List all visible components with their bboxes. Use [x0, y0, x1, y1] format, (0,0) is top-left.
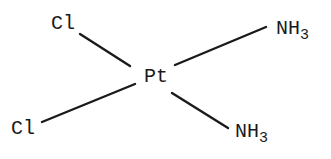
atom-label: NH [276, 17, 300, 40]
bond-pt-nh3-bottom-right [172, 93, 228, 128]
bond-pt-nh3-top-right [175, 27, 266, 65]
atom-label: Pt [144, 65, 168, 88]
atom-label: Cl [51, 12, 75, 35]
atom-subscript: 3 [259, 130, 268, 147]
molecule-diagram: Cl Cl Pt NH3 NH3 [0, 0, 331, 159]
ligand-cl-top-left: Cl [51, 14, 75, 34]
atom-label: Cl [11, 117, 35, 140]
bond-pt-cl-top-left [80, 34, 130, 66]
ligand-nh3-top-right: NH3 [276, 19, 309, 41]
ligand-cl-bottom-left: Cl [11, 119, 35, 139]
central-atom-pt: Pt [144, 67, 168, 87]
bond-pt-cl-bottom-left [42, 84, 135, 122]
atom-label: NH [235, 120, 259, 143]
ligand-nh3-bottom-right: NH3 [235, 122, 268, 144]
atom-subscript: 3 [300, 27, 309, 44]
